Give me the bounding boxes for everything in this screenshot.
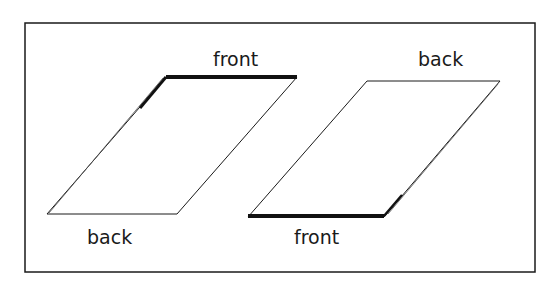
left-top-label: front (213, 48, 258, 70)
right-bottom-label: front (294, 226, 339, 248)
left-bottom-label: back (87, 226, 132, 248)
left-parallelogram (47, 77, 297, 214)
diagram-canvas: front back back front (0, 0, 554, 284)
right-top-label: back (418, 48, 463, 70)
right-parallelogram (248, 81, 500, 217)
